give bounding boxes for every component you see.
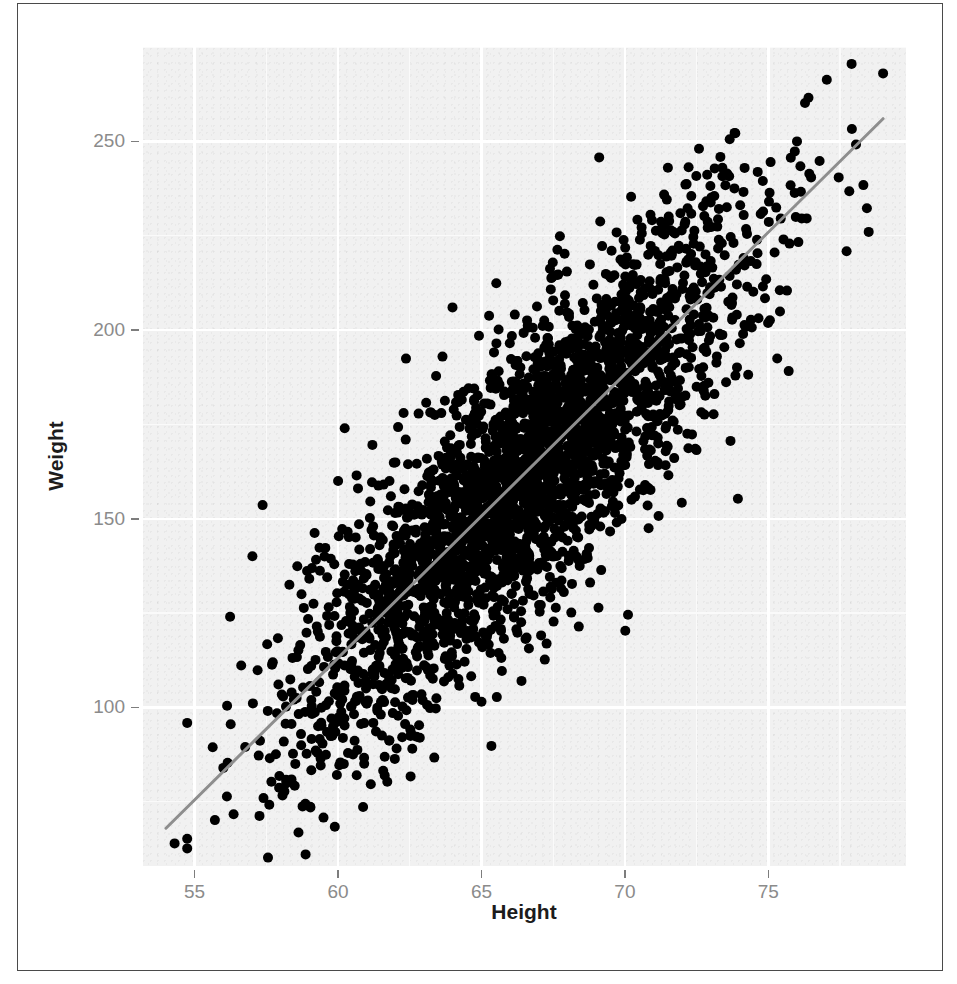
data-point — [560, 249, 570, 259]
data-point — [524, 644, 534, 654]
data-point — [486, 400, 496, 410]
data-point — [182, 843, 192, 853]
data-point — [582, 384, 592, 394]
data-point — [729, 238, 739, 248]
data-point — [632, 215, 642, 225]
data-point — [374, 601, 384, 611]
data-point — [522, 633, 532, 643]
data-point — [772, 354, 782, 364]
data-point — [428, 608, 438, 618]
data-point — [625, 375, 635, 385]
data-point — [290, 759, 300, 769]
data-point — [622, 252, 632, 262]
data-point — [802, 213, 812, 223]
data-point — [412, 666, 422, 676]
data-point — [426, 575, 436, 585]
data-point — [457, 489, 467, 499]
data-point — [490, 540, 500, 550]
data-point — [705, 331, 715, 341]
data-point — [630, 492, 640, 502]
data-point — [567, 516, 577, 526]
data-point — [306, 765, 316, 775]
data-point — [352, 470, 362, 480]
data-point — [517, 460, 527, 470]
data-point — [626, 192, 636, 202]
data-point — [332, 690, 342, 700]
data-point — [646, 485, 656, 495]
data-point — [681, 363, 691, 373]
data-point — [743, 370, 753, 380]
data-point — [612, 518, 622, 528]
data-point — [585, 463, 595, 473]
data-points-group — [170, 59, 889, 863]
x-axis-title: Height — [491, 900, 556, 924]
data-point — [182, 834, 192, 844]
data-point — [509, 599, 519, 609]
data-point — [406, 676, 416, 686]
data-point — [614, 409, 624, 419]
data-point — [600, 456, 610, 466]
data-point — [536, 408, 546, 418]
data-point — [661, 304, 671, 314]
data-point — [273, 680, 283, 690]
data-point — [584, 525, 594, 535]
data-point — [554, 354, 564, 364]
data-point — [632, 427, 642, 437]
data-point — [334, 531, 344, 541]
data-point — [389, 566, 399, 576]
data-point — [292, 561, 302, 571]
data-point — [585, 578, 595, 588]
data-point — [715, 152, 725, 162]
data-point — [344, 629, 354, 639]
data-point — [795, 161, 805, 171]
data-point — [299, 603, 309, 613]
data-point — [307, 709, 317, 719]
data-point — [705, 181, 715, 191]
data-point — [646, 357, 656, 367]
y-tick-mark — [131, 329, 139, 331]
data-point — [582, 481, 592, 491]
data-point — [793, 237, 803, 247]
data-point — [680, 219, 690, 229]
data-point — [720, 180, 730, 190]
data-point — [753, 248, 763, 258]
data-point — [632, 330, 642, 340]
data-point — [696, 269, 706, 279]
data-point — [566, 391, 576, 401]
data-point — [806, 172, 816, 182]
data-point — [670, 390, 680, 400]
data-point — [511, 380, 521, 390]
data-point — [494, 325, 504, 335]
data-point — [492, 692, 502, 702]
data-point — [317, 721, 327, 731]
data-point — [479, 600, 489, 610]
data-point — [647, 215, 657, 225]
data-point — [528, 323, 538, 333]
data-point — [610, 297, 620, 307]
data-point — [663, 470, 673, 480]
data-point — [567, 502, 577, 512]
data-point — [672, 289, 682, 299]
data-point — [387, 683, 397, 693]
data-point — [414, 409, 424, 419]
data-point — [563, 337, 573, 347]
data-point — [402, 658, 412, 668]
data-point — [510, 310, 520, 320]
data-point — [389, 458, 399, 468]
data-point — [443, 456, 453, 466]
data-point — [699, 381, 709, 391]
data-point — [375, 648, 385, 658]
data-point — [222, 792, 232, 802]
data-point — [569, 377, 579, 387]
data-point — [847, 124, 857, 134]
x-tick-mark — [624, 870, 626, 878]
y-tick-label: 200 — [81, 319, 125, 341]
data-point — [380, 752, 390, 762]
data-point — [862, 203, 872, 213]
data-point — [627, 301, 637, 311]
data-point — [617, 433, 627, 443]
data-point — [279, 786, 289, 796]
data-point — [392, 744, 402, 754]
data-point — [478, 541, 488, 551]
data-point — [504, 436, 514, 446]
